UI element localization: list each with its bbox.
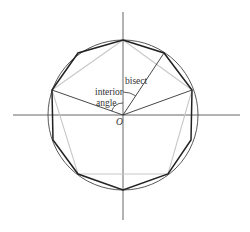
regular-polygon-diagram: interior angle bisect O (0, 0, 250, 232)
bisect-angle-arc (123, 92, 136, 96)
bisect-label: bisect (125, 76, 148, 86)
origin-label: O (116, 117, 123, 127)
radius-right (123, 90, 192, 115)
interior-label: interior (95, 87, 124, 97)
angle-label: angle (96, 98, 117, 108)
